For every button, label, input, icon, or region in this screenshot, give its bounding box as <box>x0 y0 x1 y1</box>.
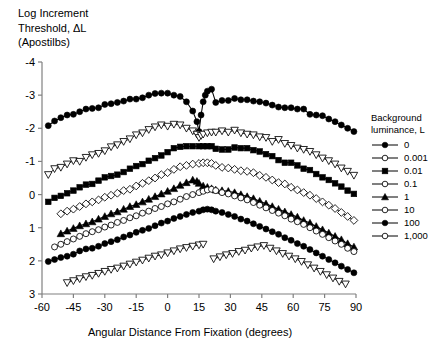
data-point <box>183 162 191 170</box>
data-point <box>224 164 232 172</box>
data-point <box>70 278 78 285</box>
data-point <box>132 132 140 139</box>
data-point <box>190 143 196 149</box>
data-point <box>139 227 145 233</box>
data-point <box>307 225 313 231</box>
x-tick-label: -15 <box>128 301 144 313</box>
data-point <box>338 241 344 247</box>
data-point <box>108 101 114 107</box>
data-point <box>313 228 319 234</box>
data-point <box>83 182 89 188</box>
data-point <box>58 241 64 247</box>
data-point <box>326 177 332 183</box>
data-point <box>64 239 70 245</box>
data-point <box>152 205 158 211</box>
legend-label: 0.001 <box>404 152 428 163</box>
data-point <box>121 169 127 175</box>
data-point <box>120 263 128 270</box>
data-point <box>121 234 127 240</box>
data-point <box>190 209 196 215</box>
data-point <box>164 250 172 257</box>
data-point <box>225 97 231 103</box>
legend-item-0[interactable]: 0 <box>371 138 428 151</box>
data-point <box>350 172 358 179</box>
data-point <box>146 225 152 231</box>
legend-item-10[interactable]: 10 <box>371 203 428 216</box>
x-tick-label: 30 <box>224 301 236 313</box>
data-point <box>152 155 158 161</box>
data-point <box>139 95 145 101</box>
data-point <box>108 222 114 228</box>
data-point <box>232 193 238 199</box>
data-point <box>263 226 269 232</box>
data-point <box>108 239 114 245</box>
data-point <box>45 259 51 265</box>
legend-entries: 00.0010.010.11101001,000 <box>371 138 428 242</box>
data-point <box>282 160 288 166</box>
legend-marker-filled-triangle-icon <box>371 191 399 203</box>
legend-label: 1,000 <box>404 230 428 241</box>
data-point <box>313 112 319 118</box>
data-point <box>107 266 115 273</box>
data-point <box>313 171 319 177</box>
legend-marker-open-circle-icon <box>371 152 399 164</box>
y-tick-label: 3 <box>29 288 35 300</box>
legend-marker-filled-circle-icon <box>371 217 399 229</box>
data-point <box>320 231 326 237</box>
data-point <box>96 243 102 249</box>
legend-item-0_01[interactable]: 0.01 <box>371 164 428 177</box>
legend-item-0_1[interactable]: 0.1 <box>371 177 428 190</box>
data-point <box>177 213 183 219</box>
data-point <box>133 96 139 102</box>
data-point <box>344 213 352 221</box>
chart-legend: Background luminance, L 00.0010.010.1110… <box>371 112 428 242</box>
data-point <box>165 149 171 155</box>
data-point <box>140 161 146 167</box>
data-point <box>294 241 300 247</box>
legend-item-0_001[interactable]: 0.001 <box>371 151 428 164</box>
data-point <box>213 146 219 152</box>
data-point <box>76 276 84 283</box>
data-point <box>326 257 332 263</box>
data-point <box>121 217 127 223</box>
data-point <box>177 93 183 99</box>
data-point <box>213 208 219 214</box>
data-point <box>209 86 215 92</box>
data-point <box>331 161 339 168</box>
data-point <box>177 196 183 202</box>
data-point <box>351 191 357 197</box>
legend-item-1[interactable]: 1 <box>371 190 428 203</box>
legend-label: 10 <box>404 204 415 215</box>
data-point <box>63 280 71 287</box>
data-point <box>269 153 275 159</box>
legend-marker-filled-circle-icon <box>371 139 399 151</box>
y-tick-label: 2 <box>29 255 35 267</box>
data-point <box>171 199 177 205</box>
data-point <box>213 188 219 194</box>
data-point <box>301 106 307 112</box>
data-point <box>165 201 171 207</box>
data-point <box>183 194 189 200</box>
data-point <box>89 105 95 111</box>
data-point <box>295 163 301 169</box>
data-point <box>83 246 89 252</box>
legend-item-100[interactable]: 100 <box>371 216 428 229</box>
data-point <box>159 153 165 159</box>
data-point <box>146 208 152 214</box>
data-point <box>250 98 256 104</box>
data-point <box>301 243 307 249</box>
data-point <box>102 224 108 230</box>
data-point <box>190 192 196 198</box>
data-point <box>190 108 196 114</box>
data-point <box>250 221 256 227</box>
data-point <box>76 158 84 165</box>
data-point <box>126 261 134 268</box>
legend-item-1_000[interactable]: 1,000 <box>371 229 428 242</box>
legend-title: Background luminance, L <box>371 112 428 135</box>
data-point <box>82 154 90 161</box>
data-point <box>127 166 133 172</box>
data-point <box>114 142 122 149</box>
data-point <box>226 147 232 153</box>
data-point <box>70 111 76 117</box>
data-point <box>102 175 108 181</box>
